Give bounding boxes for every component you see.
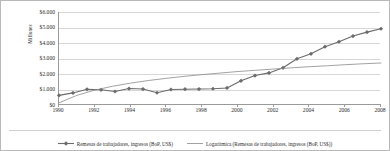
legend-divider [9,130,381,131]
data-point-marker [197,87,201,91]
legend-entry[interactable]: Logarítmica (Remesas de trabajadores, in… [187,140,332,147]
data-point-marker [323,45,327,49]
x-axis-tick-label: 2002 [267,107,278,113]
series-layer [59,12,381,105]
x-axis-tick-label: 1996 [160,107,171,113]
x-axis-tick-label: 2006 [339,107,350,113]
legend-entry[interactable]: Remesas de trabajadores, ingresos (BoP, … [58,140,173,147]
data-point-marker [337,40,341,44]
plot-area [58,12,380,105]
y-axis-tick-label: $6.000 [19,9,55,15]
data-point-marker [169,87,173,91]
data-point-marker [57,93,61,97]
x-axis-tick-label: 2000 [231,107,242,113]
data-point-marker [351,34,355,38]
y-axis-tick-label: $5.000 [19,24,55,30]
y-axis-tick-labels: $0$1.000$2.000$3.000$4.000$5.000$6.000 [15,12,55,105]
data-point-marker [183,87,187,91]
data-point-marker [211,87,215,91]
chart-container: Millones $0$1.000$2.000$3.000$4.000$5.00… [0,0,390,151]
data-point-marker [85,87,89,91]
y-axis-tick-label: $2.000 [19,71,55,77]
legend-marker-line-diamond-icon [58,140,74,147]
x-axis-tick-labels: 1990199219941996199820002002200420062008 [58,107,380,119]
data-point-marker [309,52,313,56]
y-axis-tick-label: $4.000 [19,40,55,46]
legend-marker-line-icon [187,140,203,147]
y-axis-tick-label: $3.000 [19,55,55,61]
x-axis-tick-label: 1992 [88,107,99,113]
x-axis-tick-label: 1998 [196,107,207,113]
legend-label: Logarítmica (Remesas de trabajadores, in… [206,141,332,147]
y-axis-tick-label: $1.000 [19,86,55,92]
data-point-marker [379,27,383,31]
data-point-marker [141,87,145,91]
x-axis-tick-label: 1994 [124,107,135,113]
trendline-path [59,63,381,103]
data-point-marker [155,91,159,95]
data-point-marker [253,73,257,77]
legend-label: Remesas de trabajadores, ingresos (BoP, … [77,141,173,147]
data-point-marker [71,91,75,95]
data-point-marker [127,86,131,90]
data-point-marker [365,30,369,34]
data-point-marker [267,71,271,75]
data-point-marker [239,79,243,83]
y-axis-tick-label: $0 [19,102,55,108]
data-point-marker [113,89,117,93]
data-series-path [59,29,381,96]
data-point-marker [225,86,229,90]
chart-legend: Remesas de trabajadores, ingresos (BoP, … [1,137,389,147]
x-axis-tick-label: 2004 [303,107,314,113]
x-axis-tick-label: 2008 [374,107,385,113]
x-axis-tick-label: 1990 [52,107,63,113]
